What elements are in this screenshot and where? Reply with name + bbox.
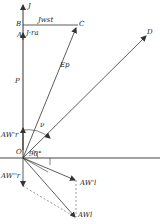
label-nu: ν	[40, 122, 44, 129]
label-J: J	[28, 3, 31, 10]
label-C: C	[79, 21, 84, 28]
label-O: O	[16, 149, 22, 156]
phasor-diagram	[0, 0, 160, 224]
label-AWr1: AW'r	[1, 132, 18, 139]
label-P: P	[15, 78, 20, 85]
angle-nu-arc	[23, 130, 50, 138]
label-AWr2: AW''r	[1, 173, 20, 180]
label-Ep: Ep	[60, 62, 70, 69]
label-B: B	[16, 21, 21, 28]
vector-AWl	[23, 158, 75, 217]
ray	[23, 158, 48, 172]
label-D: D	[147, 29, 153, 36]
label-AWl: AWl	[78, 212, 92, 219]
vector-Ep	[23, 28, 76, 158]
label-JwSt: Jwst	[38, 17, 53, 24]
vector-AWl1	[23, 158, 75, 180]
label-Jra: J·ra	[26, 30, 39, 37]
dashed-line-1	[23, 186, 75, 217]
label-A: A	[17, 32, 22, 39]
label-AWl1: AW'l	[80, 180, 96, 187]
label-90: 90°	[29, 151, 41, 158]
vector-OD	[23, 36, 146, 158]
